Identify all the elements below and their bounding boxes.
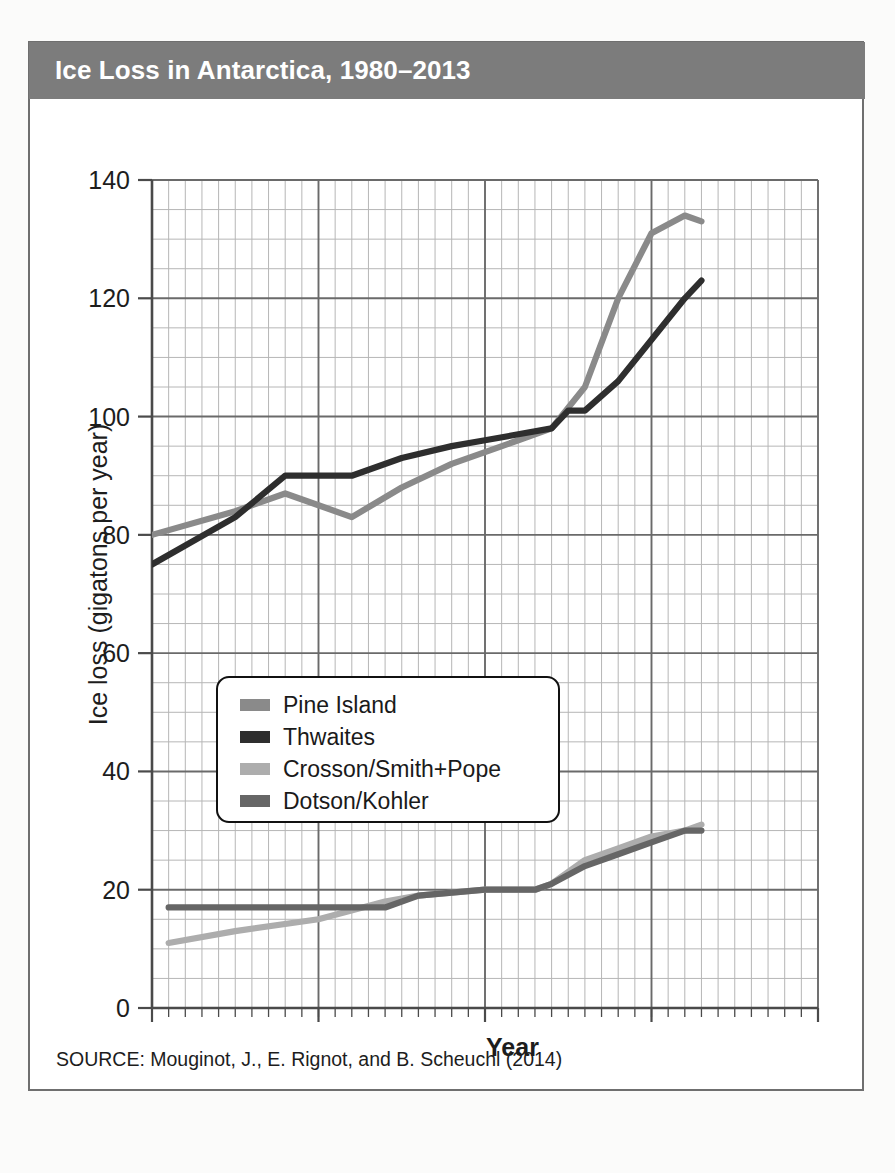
y-tick-label: 0: [116, 994, 130, 1022]
series-line-thwaites: [152, 281, 701, 565]
y-axis-title-holder: Ice loss (gigatons per year): [38, 160, 82, 960]
legend-item-crosson-smith-pope: Crosson/Smith+Pope: [218, 753, 558, 785]
legend-item-dotson-kohler: Dotson/Kohler: [218, 785, 558, 817]
y-axis-title: Ice loss (gigatons per year): [84, 265, 113, 885]
legend-item-pine-island: Pine Island: [218, 689, 558, 721]
legend-swatch-icon: [240, 795, 270, 807]
source-note: SOURCE: Mouginot, J., E. Rignot, and B. …: [56, 1048, 562, 1071]
title-banner: Ice Loss in Antarctica, 1980–2013: [29, 42, 865, 99]
series-group: [152, 215, 701, 942]
legend-item-thwaites: Thwaites: [218, 721, 558, 753]
legend-label: Pine Island: [283, 694, 397, 717]
legend-label: Dotson/Kohler: [283, 790, 429, 813]
page-title: Ice Loss in Antarctica, 1980–2013: [55, 55, 471, 86]
chart-legend: Pine Island Thwaites Crosson/Smith+Pope …: [216, 676, 560, 823]
legend-swatch-icon: [240, 699, 270, 711]
line-chart-svg: 020406080100120140 19801990200020102020: [30, 100, 862, 1030]
figure-card: Ice Loss in Antarctica, 1980–2013: [28, 41, 864, 1091]
legend-label: Thwaites: [283, 726, 375, 749]
y-tick-label: 140: [88, 166, 130, 194]
figure-page: Ice Loss in Antarctica, 1980–2013: [0, 0, 895, 1173]
legend-swatch-icon: [240, 763, 270, 775]
plot-area: 020406080100120140 19801990200020102020 …: [30, 100, 862, 1030]
legend-label: Crosson/Smith+Pope: [283, 758, 501, 781]
legend-swatch-icon: [240, 731, 270, 743]
axis-ticks: [138, 180, 818, 1022]
